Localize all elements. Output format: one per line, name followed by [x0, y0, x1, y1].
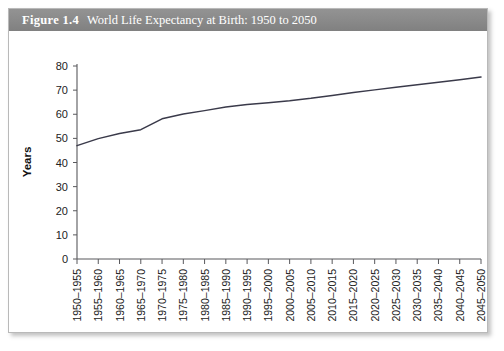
data-series-group [77, 77, 481, 146]
x-tick-label: 1965–1970 [135, 269, 147, 322]
x-tick-label: 2040–2045 [454, 269, 466, 322]
x-tick-label: 1995–2000 [262, 269, 274, 322]
y-axis-ticks [73, 66, 77, 259]
line-chart-svg: 01020304050607080 Years 1950–19551955–19… [9, 31, 487, 332]
y-tick-label: 70 [56, 84, 68, 96]
x-tick-label: 2010–2015 [326, 269, 338, 322]
x-tick-label: 1990–1995 [241, 269, 253, 322]
x-tick-label: 1955–1960 [92, 269, 104, 322]
figure-card: Figure 1.4 World Life Expectancy at Birt… [8, 8, 488, 333]
x-tick-label: 2025–2030 [390, 269, 402, 322]
y-axis: 01020304050607080 Years [21, 60, 77, 265]
x-tick-label: 2035–2040 [432, 269, 444, 322]
x-tick-label: 1950–1955 [71, 269, 83, 322]
x-tick-label: 2020–2025 [369, 269, 381, 322]
y-tick-label: 80 [56, 60, 68, 72]
x-tick-label: 1970–1975 [156, 269, 168, 322]
y-tick-label: 50 [56, 132, 68, 144]
x-axis-ticks [77, 259, 481, 264]
figure-title: World Life Expectancy at Birth: 1950 to … [87, 13, 317, 28]
life-expectancy-line [77, 77, 481, 146]
x-tick-label: 1985–1990 [220, 269, 232, 322]
y-tick-label: 0 [62, 253, 68, 265]
x-tick-label: 2005–2010 [305, 269, 317, 322]
x-tick-label: 1960–1965 [114, 269, 126, 322]
x-tick-label: 2045–2050 [475, 269, 487, 322]
y-tick-label: 20 [56, 205, 68, 217]
y-tick-label: 60 [56, 108, 68, 120]
figure-header-bar: Figure 1.4 World Life Expectancy at Birt… [9, 9, 487, 31]
y-axis-title: Years [21, 147, 33, 178]
figure-number-label: Figure 1.4 [22, 13, 79, 28]
y-tick-label: 30 [56, 181, 68, 193]
x-tick-label: 2030–2035 [411, 269, 423, 322]
x-axis-tick-labels: 1950–19551955–19601960–19651965–19701970… [71, 269, 487, 322]
y-tick-label: 40 [56, 157, 68, 169]
x-tick-label: 1975–1980 [177, 269, 189, 322]
figure-root: Figure 1.4 World Life Expectancy at Birt… [0, 0, 504, 351]
y-tick-label: 10 [56, 229, 68, 241]
chart-plot-area: 01020304050607080 Years 1950–19551955–19… [9, 31, 487, 332]
x-tick-label: 2015–2020 [347, 269, 359, 322]
x-tick-label: 2000–2005 [284, 269, 296, 322]
x-tick-label: 1980–1985 [199, 269, 211, 322]
y-axis-tick-labels: 01020304050607080 [56, 60, 68, 265]
x-axis: 1950–19551955–19601960–19651965–19701970… [71, 259, 487, 322]
